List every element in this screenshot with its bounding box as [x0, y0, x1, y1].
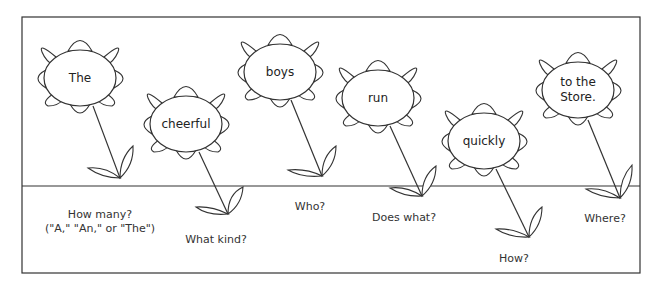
leaf-left — [586, 189, 620, 198]
leaf-left — [496, 229, 529, 237]
leaf-left — [196, 207, 228, 214]
question-label: Does what? — [372, 211, 436, 224]
flower-word: cheerful — [161, 117, 210, 131]
flower-word: The — [68, 71, 91, 85]
question-label: How? — [499, 252, 529, 265]
leaf-right — [422, 166, 436, 196]
stem — [199, 152, 228, 214]
stem — [93, 106, 120, 178]
leaf-right — [529, 207, 542, 237]
flower-word: boys — [266, 65, 294, 79]
leaf-left — [88, 168, 120, 178]
question-label: How many? — [68, 208, 132, 221]
question-label: Where? — [584, 212, 626, 225]
flower-quickly: quickly How? — [442, 104, 542, 266]
leaf-right — [120, 146, 133, 178]
leaf-left — [390, 188, 422, 196]
leaf-right — [322, 146, 336, 176]
leaf-right — [228, 187, 243, 214]
flower-the: The How many? ("A," "An," or "The") — [38, 41, 155, 236]
question-label: Who? — [295, 200, 326, 213]
sentence-flower-diagram: The How many? ("A," "An," or "The") chee… — [0, 0, 661, 292]
flower-cheerful: cheerful What kind? — [144, 87, 247, 247]
stem — [291, 100, 322, 176]
flower-to-the-store: to the Store. Where? — [536, 53, 632, 226]
question-label: What kind? — [185, 233, 247, 246]
flower-word: run — [368, 91, 388, 105]
flower-word: quickly — [463, 134, 506, 148]
flower-run: run Does what? — [336, 61, 436, 225]
flower-word-line2: Store. — [560, 90, 596, 104]
stem — [496, 169, 529, 237]
question-label-line2: ("A," "An," or "The") — [45, 222, 155, 235]
leaf-right — [620, 165, 632, 198]
flower-word: to the — [560, 75, 596, 89]
leaf-left — [288, 170, 322, 177]
